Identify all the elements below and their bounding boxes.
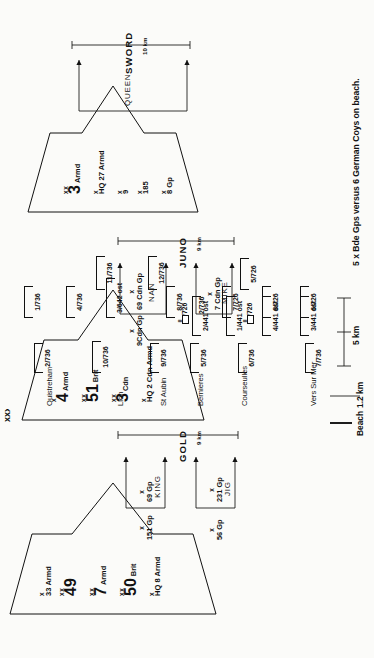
ger-unit-1-736: 1/736 bbox=[24, 286, 41, 318]
unit-suffix: Armd bbox=[61, 372, 70, 391]
ger-unit-label: 8/726 bbox=[272, 286, 279, 318]
sector-king: KING bbox=[154, 475, 162, 498]
ger-unit-11-736: 11/736 bbox=[96, 256, 113, 290]
ger-unit-5-726: 5/726 bbox=[240, 258, 257, 290]
unit-3-armd-div: xx 3 Armd bbox=[62, 164, 82, 194]
ger-battalion-symbol-726-east: II /726 bbox=[182, 315, 189, 324]
diagram-stage: xxxxxxxxxxxxxxxxxxxxxxxxxxxxxxxxxxxxxxxx… bbox=[0, 0, 374, 658]
diagram-canvas: xxxxxxxxxxxxxxxxxxxxxxxxxxxxxxxxxxxxxxxx… bbox=[0, 0, 374, 658]
sector-jig: JIG bbox=[224, 481, 232, 496]
bde-name: 9Cdn Gp bbox=[135, 315, 144, 346]
ger-unit-label: 6/736 bbox=[248, 343, 255, 373]
town-bernieres: Bernieres bbox=[197, 374, 205, 407]
ger-unit-8-726: 8/726 bbox=[262, 286, 279, 318]
bde-size-glyph: x bbox=[138, 515, 145, 540]
ger-unit-label: 2/736 bbox=[44, 343, 51, 373]
echelon-glyph: II bbox=[178, 319, 184, 322]
unit-185-bde: x 185 bbox=[136, 181, 150, 194]
frontage-gold: 9 km bbox=[196, 431, 202, 445]
bde-9-cdn-gp: x 9Cdn Gp bbox=[128, 315, 144, 346]
ger-unit-label: 12/736 bbox=[158, 256, 165, 290]
unit-49-div: xx 49 bbox=[58, 576, 78, 596]
bde-name: 151 Gp bbox=[145, 515, 154, 540]
ger-unit-5-736: 5/736 bbox=[190, 343, 207, 373]
unit-number: 7 bbox=[94, 587, 108, 596]
figure-caption: 5 x Bde Gps versus 6 German Coys on beac… bbox=[352, 78, 361, 266]
ger-unit-2-736-north: 2/736 bbox=[34, 343, 51, 373]
bde-231-gp: x 231 Gp bbox=[208, 477, 224, 502]
ger-unit-label: 7/736 bbox=[315, 343, 322, 373]
unit-suffix: Cdn bbox=[121, 377, 130, 391]
scale-beach-depth: 1.2 km bbox=[356, 382, 364, 408]
ger-unit-4-736: 4/736 bbox=[66, 286, 83, 318]
unit-suffix: Armd bbox=[44, 566, 53, 585]
ger-unit-7-736: 7/736 bbox=[305, 343, 322, 373]
ger-unit-2-736-rear: 2/736 bbox=[198, 296, 205, 314]
bde-size-glyph: x bbox=[138, 481, 145, 502]
echelon-glyph: II bbox=[243, 319, 249, 322]
unit-7-armd-div: xx 7 Armd bbox=[88, 566, 108, 596]
unit-number: 50 bbox=[124, 578, 138, 596]
bde-size-glyph: x bbox=[208, 519, 215, 540]
scale-distance: 5 km bbox=[352, 326, 360, 345]
bde-name: 56 Gp bbox=[215, 519, 224, 540]
ger-unit-6-726: 6/726 bbox=[300, 286, 317, 318]
ger-unit-label: 7/726 bbox=[232, 286, 239, 318]
ger-unit-label: 5/726 bbox=[250, 258, 257, 290]
frontage-sword: 10 km bbox=[142, 37, 148, 55]
unit-number: HQ 8 Armd bbox=[154, 557, 162, 596]
ger-unit-label: 10/736 bbox=[102, 341, 109, 373]
unit-33-armd: x 33 Armd bbox=[38, 566, 53, 596]
unit-number: 8 Gp bbox=[166, 177, 174, 194]
ger-unit-label: 1/736 bbox=[34, 286, 41, 318]
unit-number: HQ 27 Armd bbox=[98, 150, 106, 194]
unit-hq-27-armd: x HQ 27 Armd bbox=[92, 150, 106, 194]
unit-number: 33 bbox=[45, 588, 53, 596]
unit-8-bde: x 8 Gp bbox=[160, 177, 174, 194]
unit-number: 9 bbox=[122, 190, 130, 194]
bde-size-glyph: x bbox=[128, 315, 135, 346]
ger-unit-label: 6/726 bbox=[310, 286, 317, 318]
unit-number: 49 bbox=[64, 578, 78, 596]
unit-number: 51 bbox=[86, 384, 100, 402]
frontage-juno: 9 km bbox=[196, 237, 202, 251]
scale-beach-label: Beach bbox=[356, 411, 364, 436]
ger-battalion-symbol-726-west: II /726 bbox=[247, 315, 254, 324]
ger-unit-7-726: 7/726 bbox=[222, 286, 239, 318]
beach-name-sword: SWORD bbox=[124, 32, 134, 74]
bde-size-glyph: x bbox=[208, 477, 215, 502]
beach-name-gold: GOLD bbox=[178, 430, 188, 462]
ger-unit-6-736: 6/736 bbox=[238, 343, 255, 373]
unit-number: 3 bbox=[68, 185, 82, 194]
unit-suffix: Armd bbox=[73, 164, 82, 183]
bde-56-gp: x 56 Gp bbox=[208, 519, 224, 540]
ger-battalion-label: /726 bbox=[181, 303, 188, 316]
sector-queen: QUEEN bbox=[124, 74, 132, 106]
beach-name-juno: JUNO bbox=[178, 237, 188, 268]
shoreline-hatch: xxxxxxxxxxxxxxxxxxxxxxxxxxxxxxxxxxxxxxxx… bbox=[4, 409, 370, 422]
ger-unit-label: 5/736 bbox=[200, 343, 207, 373]
diagram-vectors bbox=[0, 0, 374, 658]
town-lion: Lion bbox=[117, 392, 125, 406]
ger-battalion-label: /726 bbox=[246, 303, 253, 316]
bde-size-glyph: x bbox=[128, 273, 135, 310]
town-st-aubin: St Aubin bbox=[160, 378, 168, 406]
unit-hq-8-armd: x HQ 8 Armd bbox=[148, 557, 162, 596]
ger-unit-9-736: 9/736 bbox=[150, 343, 167, 373]
ger-unit-label: 3/642 ost bbox=[116, 278, 123, 318]
unit-9-bde: x 9 bbox=[116, 190, 130, 194]
ger-unit-label: 4/736 bbox=[76, 286, 83, 318]
bde-69-gp: x 69 Gp bbox=[138, 481, 154, 502]
bde-69-cdn-gp: x 69 Cdn Gp bbox=[128, 273, 144, 310]
unit-suffix: Brit bbox=[129, 563, 138, 576]
unit-51-brit-div: xx 51 Brit bbox=[80, 369, 100, 402]
unit-50-brit-div: xx 50 Brit bbox=[118, 563, 138, 596]
unit-number: 4 bbox=[56, 393, 70, 402]
ger-unit-label: 9/736 bbox=[160, 343, 167, 373]
bde-name: 69 Cdn Gp bbox=[135, 273, 144, 310]
ger-unit-label: 11/736 bbox=[106, 256, 113, 290]
frontage-bar-juno bbox=[118, 237, 234, 245]
bde-151-gp: x 151 Gp bbox=[138, 515, 154, 540]
ger-unit-10-736: 10/736 bbox=[92, 341, 109, 373]
unit-suffix: Armd bbox=[99, 566, 108, 585]
